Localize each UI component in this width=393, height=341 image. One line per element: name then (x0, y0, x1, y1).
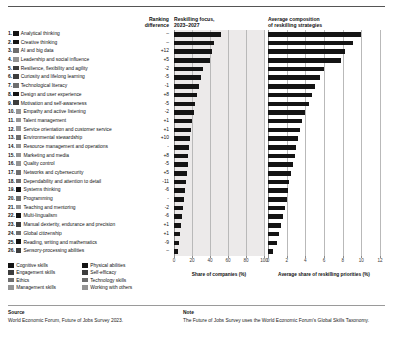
x-tick-label-12: 12 (377, 258, 382, 263)
skill-group-swatch-icon (13, 74, 18, 79)
skill-name: Curiosity and lifelong learning (21, 73, 85, 82)
legend-swatch-icon (8, 285, 14, 290)
skill-label: 3.AI and big data (8, 47, 54, 56)
skill-name: Multi-lingualism (23, 212, 57, 221)
bar-composition (268, 249, 273, 254)
skill-rank: 24. (8, 230, 15, 239)
ranking-difference-value: +1 (131, 230, 169, 239)
skill-label: 2.Creative thinking (8, 39, 57, 48)
legend-label: Ethics (16, 278, 29, 283)
skill-name: Creative thinking (21, 39, 57, 48)
ranking-difference-value: -6 (131, 186, 169, 195)
skill-label: 24.Global citizenship (8, 230, 62, 239)
legend-label: Working with others (90, 285, 132, 290)
legend-item: Management skills (8, 284, 56, 291)
bar-reskilling-focus (174, 214, 182, 219)
skill-rank: 26. (8, 247, 15, 256)
x-tick-label-8: 8 (341, 258, 344, 263)
skill-group-swatch-icon (16, 144, 21, 149)
legend-item: Engagement skills (8, 269, 56, 276)
skill-row: 2.Creative thinking– (0, 39, 393, 48)
skill-label: 23.Manual dexterity, endurance and preci… (8, 221, 115, 230)
skill-group-swatch-icon (16, 109, 21, 114)
x-tick-label-0: 0 (267, 258, 270, 263)
legend-label: Self-efficacy (90, 270, 116, 275)
skill-rank: 3. (8, 47, 12, 56)
bar-composition (268, 154, 295, 159)
skill-name: Environmental stewardship (23, 134, 82, 143)
legend-label: Engagement skills (16, 270, 55, 275)
x-axis-title-composition: Average share of reskilling priorities (… (268, 272, 380, 277)
skill-label: 11.Talent management (8, 117, 66, 126)
skill-group-swatch-icon (13, 48, 18, 53)
bar-composition (268, 162, 293, 167)
skill-label: 19.Systems thinking (8, 186, 60, 195)
skill-label: 18.Dependability and attention to detail (8, 178, 101, 187)
ranking-difference-value: +5 (131, 169, 169, 178)
skill-group-swatch-icon (16, 153, 21, 158)
bar-reskilling-focus (174, 49, 212, 54)
bar-composition (268, 214, 283, 219)
skill-label: 21.Teaching and mentoring (8, 204, 76, 213)
bar-reskilling-focus (174, 58, 210, 63)
legend-swatch-icon (8, 278, 14, 283)
bar-reskilling-focus (174, 241, 179, 246)
ranking-difference-value: +1 (131, 126, 169, 135)
legend-label: Management skills (16, 285, 56, 290)
skill-rank: 1. (8, 30, 12, 39)
skill-name: Resource management and operations (23, 143, 108, 152)
x-tick-mark-0 (268, 256, 269, 258)
bar-composition (268, 58, 341, 63)
skill-group-swatch-icon (13, 57, 18, 62)
skill-row: 16.Quality control-5 (0, 160, 393, 169)
skill-rank: 11. (8, 117, 15, 126)
skill-label: 9.Motivation and self-awareness (8, 100, 87, 109)
skill-name: Networks and cybersecurity (23, 169, 83, 178)
ranking-difference-value: +1 (131, 221, 169, 230)
bar-reskilling-focus (174, 93, 197, 98)
x-axis-title-reskilling-focus: Share of companies (%) (174, 272, 264, 277)
bar-reskilling-focus (174, 162, 188, 167)
skill-name: Marketing and media (23, 152, 69, 161)
skill-group-swatch-icon (16, 135, 21, 140)
legend-swatch-icon (82, 285, 88, 290)
legend-item: Technology skills (82, 277, 132, 284)
ranking-difference-value: -2 (131, 108, 169, 117)
skill-group-swatch-icon (13, 66, 18, 71)
legend-column-1: Cognitive skillsEngagement skillsEthicsM… (8, 262, 56, 292)
bar-composition (268, 197, 287, 202)
skill-label: 13.Environmental stewardship (8, 134, 82, 143)
skill-name: Analytical thinking (21, 30, 60, 39)
bar-reskilling-focus (174, 136, 190, 141)
source-title: Source (8, 310, 183, 315)
skill-group-swatch-icon (16, 196, 21, 201)
note-block: Note The Future of Jobs Survey uses the … (183, 310, 388, 323)
x-tick-mark-100 (264, 256, 265, 258)
skill-label: 26.Sensory-processing abilities (8, 247, 84, 256)
skill-label: 8.Design and user experience (8, 91, 82, 100)
skill-rank: 15. (8, 152, 15, 161)
skill-rank: 23. (8, 221, 15, 230)
skill-row: 22.Multi-lingualism-6 (0, 212, 393, 221)
x-tick-mark-40 (210, 256, 211, 258)
bar-composition (268, 41, 353, 46)
bar-reskilling-focus (174, 206, 183, 211)
skill-name: Motivation and self-awareness (21, 100, 87, 109)
skill-name: Resilience, flexibility and agility (21, 65, 88, 74)
skill-label: 16.Quality control (8, 160, 55, 169)
skill-name: Sensory-processing abilities (23, 247, 84, 256)
legend-swatch-icon (8, 270, 14, 275)
ranking-difference-value: -6 (131, 212, 169, 221)
skill-rank: 7. (8, 82, 12, 91)
skill-group-swatch-icon (16, 118, 21, 123)
skill-row: 23.Manual dexterity, endurance and preci… (0, 221, 393, 230)
x-tick-mark-4 (305, 256, 306, 258)
skill-rank: 20. (8, 195, 15, 204)
skill-rank: 2. (8, 39, 12, 48)
skill-group-swatch-icon (16, 231, 21, 236)
skill-label: 14.Resource management and operations (8, 143, 108, 152)
skill-name: Programming (23, 195, 52, 204)
skill-rank: 4. (8, 56, 12, 65)
skill-group-swatch-icon (16, 161, 21, 166)
legend-swatch-icon (82, 263, 88, 268)
